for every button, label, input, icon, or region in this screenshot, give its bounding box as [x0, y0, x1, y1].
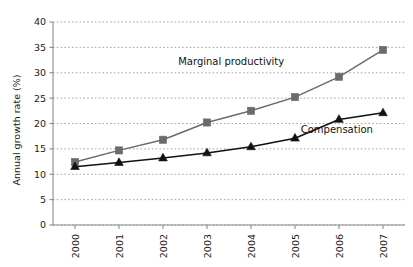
y-tick-label-35: 35	[34, 42, 46, 53]
y-tick-label-10: 10	[34, 169, 46, 180]
y-tick-label-30: 30	[34, 67, 46, 78]
chart-figure: 0510152025303540 20002001200220032004200…	[0, 0, 413, 267]
y-axis-title: Annual growth rate (%)	[11, 75, 22, 186]
series-label-compensation: Compensation	[301, 124, 373, 135]
series-label-marginal-productivity: Marginal productivity	[178, 56, 284, 67]
y-tick-label-5: 5	[40, 194, 46, 205]
y-tick-label-15: 15	[34, 143, 46, 154]
data-point-marginal-productivity-2002	[159, 136, 166, 143]
x-tick-label-2001: 2001	[114, 234, 125, 258]
x-tick-label-2005: 2005	[290, 234, 301, 258]
x-tick-label-2007: 2007	[378, 234, 389, 258]
x-tick-label-2002: 2002	[158, 234, 169, 258]
y-tick-label-25: 25	[34, 93, 46, 104]
data-point-marginal-productivity-2004	[247, 107, 254, 114]
data-point-marginal-productivity-2003	[203, 119, 210, 126]
y-tick-label-20: 20	[34, 118, 46, 129]
line-chart: 0510152025303540 20002001200220032004200…	[0, 0, 413, 267]
y-tick-label-40: 40	[34, 16, 46, 27]
data-point-marginal-productivity-2005	[291, 94, 298, 101]
x-tick-label-2003: 2003	[202, 234, 213, 258]
y-tick-label-0: 0	[40, 219, 46, 230]
data-point-marginal-productivity-2007	[379, 46, 386, 53]
data-point-marginal-productivity-2006	[335, 73, 342, 80]
x-tick-label-2006: 2006	[334, 234, 345, 258]
data-point-marginal-productivity-2001	[115, 147, 122, 154]
x-tick-label-2000: 2000	[70, 234, 81, 258]
x-tick-label-2004: 2004	[246, 234, 257, 258]
